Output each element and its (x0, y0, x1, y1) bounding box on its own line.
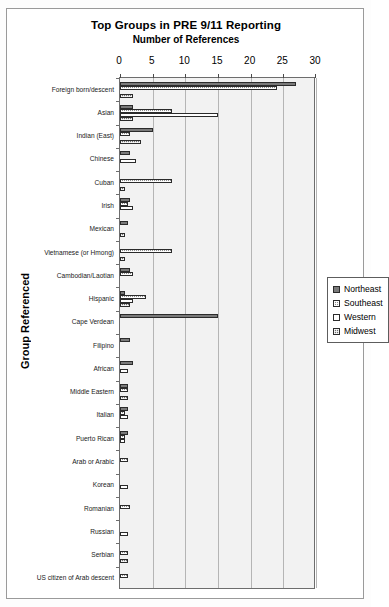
y-category-label: Vietnamese (or Hmong) (44, 248, 114, 255)
bar-group (120, 264, 314, 287)
legend-item-northeast[interactable]: Northeast (333, 282, 383, 296)
x-tick-label: 0 (116, 55, 122, 66)
bar-midwest (120, 396, 128, 400)
bar-group (120, 125, 314, 148)
bar-southeast (120, 505, 130, 509)
bar-group (120, 427, 314, 450)
gridline (316, 78, 317, 588)
x-tick-label: 15 (211, 55, 222, 66)
y-category-label: Asian (98, 108, 115, 115)
bar-group (120, 194, 314, 217)
y-axis-tick (116, 474, 120, 475)
bar-southeast (120, 249, 172, 253)
y-axis-tick (116, 148, 120, 149)
legend-label: Southeast (344, 298, 383, 308)
bar-western (120, 532, 128, 536)
bar-group (120, 567, 314, 590)
y-category-label: Italian (96, 411, 114, 418)
bar-group (120, 78, 314, 101)
chart-legend: NortheastSoutheastWesternMidwest (327, 277, 389, 343)
bar-western (120, 159, 136, 163)
legend-label: Northeast (344, 284, 381, 294)
bar-northeast (120, 151, 130, 155)
y-category-label: Cuban (95, 178, 114, 185)
y-category-label: Indian (East) (77, 132, 114, 139)
legend-item-western[interactable]: Western (333, 310, 383, 324)
plot-area (119, 77, 315, 589)
y-category-label: Cambodian/Laotian (57, 271, 114, 278)
y-category-label: Russian (90, 527, 114, 534)
bar-midwest (120, 187, 125, 191)
y-axis-tick (116, 194, 120, 195)
bar-group (120, 520, 314, 543)
x-axis-tick (315, 74, 316, 78)
chart-title: Top Groups in PRE 9/11 Reporting (7, 19, 365, 31)
bar-northeast (120, 314, 218, 318)
bar-group (120, 311, 314, 334)
y-category-label: Mexican (89, 225, 114, 232)
bar-midwest (120, 257, 125, 261)
y-category-label: Cape Verdean (72, 318, 114, 325)
bar-midwest (120, 303, 130, 307)
y-category-label: Puerto Rican (76, 434, 114, 441)
bar-midwest (120, 140, 141, 144)
y-axis-tick (116, 567, 120, 568)
y-axis-tick (116, 264, 120, 265)
x-tick-label: 25 (277, 55, 288, 66)
y-category-label: Romanian (84, 504, 114, 511)
bar-group (120, 450, 314, 473)
y-axis-tick (116, 357, 120, 358)
y-axis-tick (116, 125, 120, 126)
x-tick-label: 30 (309, 55, 320, 66)
bar-group (120, 334, 314, 357)
legend-label: Western (344, 312, 376, 322)
y-category-label: Serbian (91, 551, 114, 558)
bar-midwest (120, 117, 133, 121)
y-axis-tick (116, 311, 120, 312)
legend-swatch-midwest (333, 328, 340, 335)
bar-southeast (120, 551, 128, 555)
y-axis-tick (116, 427, 120, 428)
y-axis-tick (116, 381, 120, 382)
bar-northeast (120, 361, 133, 365)
y-category-label: Foreign born/descent (52, 85, 114, 92)
bar-western (120, 113, 218, 117)
bar-midwest (120, 559, 128, 563)
y-axis-tick (116, 218, 120, 219)
x-tick-label: 20 (244, 55, 255, 66)
bar-group (120, 404, 314, 427)
y-category-label: Arab or Arabic (72, 458, 114, 465)
legend-item-southeast[interactable]: Southeast (333, 296, 383, 310)
bar-southeast (120, 458, 128, 462)
y-category-label: US citizen of Arab descent (37, 574, 114, 581)
bar-southeast (120, 179, 172, 183)
bar-group (120, 171, 314, 194)
bar-group (120, 287, 314, 310)
y-category-label: Filipino (93, 341, 114, 348)
legend-item-midwest[interactable]: Midwest (333, 324, 383, 338)
bar-group (120, 218, 314, 241)
y-axis-tick (116, 334, 120, 335)
bar-southeast (120, 388, 128, 392)
y-axis-tick (116, 497, 120, 498)
bar-western (120, 485, 128, 489)
y-axis-tick (116, 101, 120, 102)
x-tick-label: 10 (179, 55, 190, 66)
legend-label: Midwest (344, 326, 376, 336)
y-axis-tick (116, 520, 120, 521)
bar-midwest (120, 233, 125, 237)
bar-southeast (120, 574, 128, 578)
bar-western (120, 415, 128, 419)
bar-group (120, 474, 314, 497)
bar-southeast (120, 272, 133, 276)
bar-midwest (120, 94, 133, 98)
y-category-label: Irish (102, 202, 114, 209)
bar-western (120, 439, 125, 443)
y-axis-title: Group Referenced (19, 273, 31, 369)
y-axis-tick (116, 450, 120, 451)
chart-subtitle: Number of References (7, 34, 365, 45)
y-axis-tick (116, 78, 120, 79)
y-category-label: Chinese (90, 155, 114, 162)
bar-southeast (120, 86, 277, 90)
